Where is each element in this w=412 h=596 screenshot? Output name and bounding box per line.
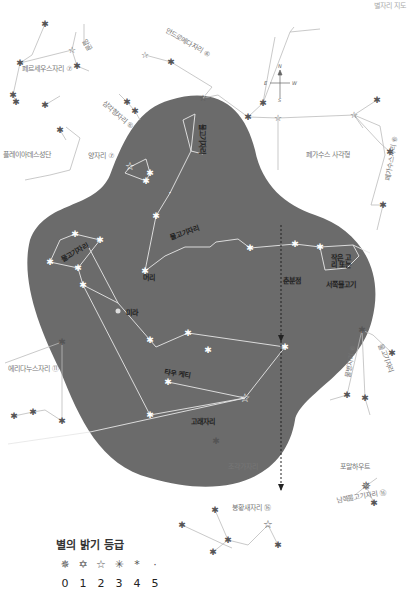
svg-text:✱: ✱ — [123, 97, 131, 107]
label-cetus: 고래자리 — [191, 419, 215, 426]
mag-3-icon: ✳ — [110, 558, 128, 571]
mag-4-label: 4 — [128, 577, 146, 590]
mag-4-icon: * — [128, 558, 146, 571]
legend-magnitudes: 0 1 2 3 4 5 — [56, 577, 164, 590]
svg-text:✱: ✱ — [131, 106, 139, 116]
svg-text:✱: ✱ — [343, 390, 351, 400]
label-pisces-north: 물고기자리 — [198, 124, 205, 154]
svg-text:✱: ✱ — [212, 436, 220, 446]
svg-text:N: N — [278, 63, 282, 69]
label-fomalhaut: 포말하우트 — [340, 464, 370, 471]
svg-text:✱: ✱ — [56, 125, 64, 135]
mag-2-label: 2 — [92, 577, 110, 590]
svg-text:✱: ✱ — [244, 112, 252, 122]
svg-text:S: S — [278, 97, 282, 103]
svg-text:W: W — [292, 80, 298, 86]
svg-text:✱: ✱ — [178, 520, 186, 530]
svg-text:☆: ☆ — [350, 110, 358, 120]
svg-text:✱: ✱ — [167, 57, 175, 67]
label-mira: 미라 — [126, 310, 138, 317]
svg-text:✱: ✱ — [316, 242, 324, 252]
mag-5-icon: · — [146, 558, 164, 571]
svg-text:✱: ✱ — [281, 342, 289, 352]
svg-text:✱: ✱ — [146, 410, 154, 420]
svg-text:✱: ✱ — [358, 325, 366, 335]
label-aries: 양자리 ⑦ — [88, 153, 115, 160]
star-chart: N E W S ✱☆✱ ✱✱✱ ☆✱✱ ☆☆✱ ✱☆ ✱✱ ✱✱ ✱✱✱✱ ✱✱… — [0, 0, 412, 596]
svg-text:✱: ✱ — [58, 337, 66, 347]
label-pleiades: 플레이아데스성단 — [3, 152, 51, 159]
svg-text:✱: ✱ — [379, 200, 387, 210]
svg-text:✱: ✱ — [224, 535, 232, 545]
svg-text:✱: ✱ — [74, 263, 82, 273]
label-perseus: 페르세우스자리 ⑦ — [22, 66, 73, 73]
compass-icon — [270, 70, 290, 98]
label-sculptor: 조각가자리 — [228, 464, 258, 471]
svg-text:✱: ✱ — [246, 243, 254, 253]
svg-text:☆: ☆ — [125, 160, 135, 173]
label-pegasus-square: 페가수스 사각형 — [306, 152, 350, 159]
svg-text:☆: ☆ — [263, 518, 273, 531]
svg-text:✱: ✱ — [274, 540, 282, 550]
mag-1-icon: ✡ — [74, 558, 92, 571]
svg-text:☆: ☆ — [274, 113, 282, 123]
label-vernal-equinox: 춘분점 — [283, 278, 301, 285]
svg-text:✱: ✱ — [370, 498, 378, 508]
svg-text:✱: ✱ — [41, 100, 49, 110]
svg-text:☆: ☆ — [199, 93, 207, 103]
svg-text:✱: ✱ — [373, 95, 381, 105]
svg-text:✱: ✱ — [361, 393, 369, 403]
svg-text:✱: ✱ — [259, 98, 267, 108]
svg-text:✱: ✱ — [29, 407, 37, 417]
label-mirach: 머리 — [143, 275, 155, 282]
svg-text:✱: ✱ — [71, 229, 79, 239]
svg-text:✱: ✱ — [204, 345, 212, 355]
magnitude-legend: 별의 밝기 등급 ✵ ✡ ☆ ✳ * · 0 1 2 3 4 5 — [56, 536, 164, 590]
corner-text: 별자리 지도 — [374, 0, 406, 10]
label-phoenix: 봉황새자리 ⑯ — [232, 505, 271, 512]
legend-glyphs: ✵ ✡ ☆ ✳ * · — [56, 558, 164, 571]
svg-text:E: E — [264, 80, 268, 86]
mag-5-label: 5 — [146, 577, 164, 590]
mag-0-label: 0 — [56, 577, 74, 590]
label-circlet: 작은 고리 또는 — [328, 255, 354, 269]
svg-text:✱: ✱ — [79, 280, 87, 290]
mira-star — [116, 309, 121, 314]
svg-text:✱: ✱ — [184, 328, 192, 338]
svg-text:☆: ☆ — [68, 45, 76, 55]
label-eridanus: 에리다누스자리 ⑪ — [8, 366, 59, 373]
svg-text:☆: ☆ — [141, 50, 149, 60]
svg-text:✱: ✱ — [46, 257, 54, 267]
svg-text:✱: ✱ — [41, 19, 49, 29]
svg-text:✱: ✱ — [10, 411, 18, 421]
svg-text:✱: ✱ — [209, 547, 217, 557]
svg-text:·: · — [169, 188, 172, 198]
mag-2-icon: ☆ — [92, 558, 110, 571]
legend-title: 별의 밝기 등급 — [56, 536, 164, 552]
mag-3-label: 3 — [110, 577, 128, 590]
svg-text:✱: ✱ — [96, 235, 104, 245]
mag-0-icon: ✵ — [56, 558, 74, 571]
svg-text:✱: ✱ — [152, 211, 160, 221]
label-western-fish: 서쪽물고기 — [326, 282, 356, 289]
svg-text:✱: ✱ — [146, 335, 154, 345]
svg-text:✱: ✱ — [211, 505, 219, 515]
svg-text:✱: ✱ — [73, 61, 81, 71]
svg-text:✱: ✱ — [9, 90, 17, 100]
svg-text:✱: ✱ — [164, 377, 172, 387]
svg-text:✱: ✱ — [58, 416, 66, 426]
svg-text:☆: ☆ — [240, 391, 251, 405]
mag-1-label: 1 — [74, 577, 92, 590]
svg-text:✱: ✱ — [291, 239, 299, 249]
svg-text:✱: ✱ — [146, 168, 154, 178]
